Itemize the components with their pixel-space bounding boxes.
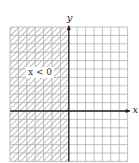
inequality-label: x < 0	[26, 67, 54, 78]
x-axis-label: x	[133, 105, 139, 115]
inequality-graph	[0, 0, 139, 163]
y-axis-label: y	[67, 13, 73, 23]
